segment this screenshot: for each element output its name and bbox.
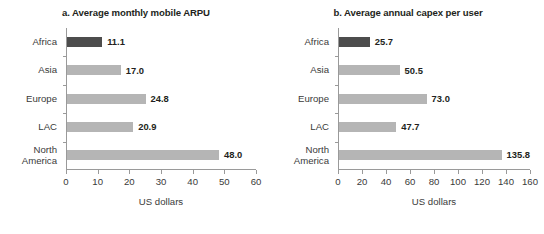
bar-row: 48.0 bbox=[67, 141, 256, 169]
x-axis-tick bbox=[256, 170, 257, 174]
bar bbox=[67, 37, 102, 47]
y-axis-label: North America bbox=[272, 142, 334, 170]
y-axis-tick bbox=[335, 85, 339, 86]
x-axis-tick-label: 120 bbox=[474, 176, 490, 187]
x-axis-tick bbox=[386, 170, 387, 174]
x-axis-tick-label: 30 bbox=[156, 176, 167, 187]
x-axis-tick bbox=[530, 170, 531, 174]
bar-value-label: 24.8 bbox=[151, 94, 169, 103]
x-axis-tick-label: 80 bbox=[429, 176, 440, 187]
bar-value-label: 48.0 bbox=[224, 150, 242, 159]
x-axis-tick-label: 140 bbox=[498, 176, 514, 187]
bar-row: 24.8 bbox=[67, 84, 256, 112]
bar-row: 11.1 bbox=[67, 28, 256, 56]
x-axis-tick bbox=[506, 170, 507, 174]
x-axis-tick bbox=[362, 170, 363, 174]
bar bbox=[339, 94, 427, 104]
bar bbox=[67, 94, 146, 104]
y-axis-tick bbox=[335, 113, 339, 114]
x-axis-tick-label: 20 bbox=[357, 176, 368, 187]
y-axis-label: Asia bbox=[0, 56, 62, 84]
x-axis-tick bbox=[66, 170, 67, 174]
x-axis-tick bbox=[224, 170, 225, 174]
y-axis-tick bbox=[63, 85, 67, 86]
y-axis-label: Asia bbox=[272, 56, 334, 84]
x-axis-tick-label: 100 bbox=[450, 176, 466, 187]
y-axis-labels-a: AfricaAsiaEuropeLACNorth America bbox=[0, 28, 62, 170]
x-axis-tick-label: 10 bbox=[92, 176, 103, 187]
x-axis-tick bbox=[458, 170, 459, 174]
bars-container-b: 25.750.573.047.7135.8 bbox=[339, 28, 530, 169]
x-axis-tick-label: 20 bbox=[124, 176, 135, 187]
x-axis-tick bbox=[98, 170, 99, 174]
bar-row: 135.8 bbox=[339, 141, 530, 169]
bar-row: 47.7 bbox=[339, 113, 530, 141]
x-axis-tick-labels-a: 0102030405060 bbox=[0, 176, 272, 190]
bar-value-label: 47.7 bbox=[401, 122, 419, 131]
y-axis-tick bbox=[335, 142, 339, 143]
bar-row: 25.7 bbox=[339, 28, 530, 56]
x-axis-tick-label: 0 bbox=[335, 176, 340, 187]
x-axis-tick-label: 40 bbox=[381, 176, 392, 187]
y-axis-tick bbox=[63, 142, 67, 143]
figure-container: a. Average monthly mobile ARPU AfricaAsi… bbox=[0, 0, 544, 234]
y-axis-label: Europe bbox=[0, 85, 62, 113]
x-axis-title-a: US dollars bbox=[139, 196, 183, 207]
bar bbox=[67, 122, 133, 132]
y-axis-tick bbox=[63, 56, 67, 57]
x-axis-title-b: US dollars bbox=[412, 196, 456, 207]
x-axis-tick bbox=[482, 170, 483, 174]
x-axis-ticks-b bbox=[338, 170, 530, 174]
chart-title-b: b. Average annual capex per user bbox=[272, 7, 544, 18]
bar-row: 20.9 bbox=[67, 113, 256, 141]
y-axis-label: LAC bbox=[0, 113, 62, 141]
chart-panel-a: a. Average monthly mobile ARPU AfricaAsi… bbox=[0, 0, 272, 234]
bar-value-label: 25.7 bbox=[375, 37, 393, 46]
y-axis-tick bbox=[63, 113, 67, 114]
x-axis-tick-label: 50 bbox=[219, 176, 230, 187]
bar-value-label: 20.9 bbox=[138, 122, 156, 131]
x-axis-tick-label: 60 bbox=[405, 176, 416, 187]
x-axis-tick bbox=[193, 170, 194, 174]
bar bbox=[339, 150, 502, 160]
bar bbox=[67, 150, 219, 160]
y-axis-label: North America bbox=[0, 142, 62, 170]
bar bbox=[67, 65, 121, 75]
x-axis-tick bbox=[129, 170, 130, 174]
x-axis-tick-labels-b: 020406080100120140160 bbox=[272, 176, 544, 190]
y-axis-label: Africa bbox=[272, 28, 334, 56]
bar-value-label: 11.1 bbox=[107, 37, 125, 46]
y-axis-label: LAC bbox=[272, 113, 334, 141]
x-axis-tick bbox=[410, 170, 411, 174]
bar bbox=[339, 37, 370, 47]
y-axis-label: Europe bbox=[272, 85, 334, 113]
bar-value-label: 17.0 bbox=[126, 66, 144, 75]
x-axis-tick bbox=[161, 170, 162, 174]
chart-title-a: a. Average monthly mobile ARPU bbox=[0, 7, 272, 18]
x-axis-tick bbox=[434, 170, 435, 174]
plot-area-b: 25.750.573.047.7135.8 bbox=[338, 28, 530, 170]
bar bbox=[339, 122, 396, 132]
y-axis-label: Africa bbox=[0, 28, 62, 56]
y-axis-labels-b: AfricaAsiaEuropeLACNorth America bbox=[272, 28, 334, 170]
x-axis-ticks-a bbox=[66, 170, 256, 174]
y-axis-tick bbox=[335, 56, 339, 57]
bar-row: 17.0 bbox=[67, 56, 256, 84]
bar-row: 50.5 bbox=[339, 56, 530, 84]
x-axis-tick-label: 160 bbox=[522, 176, 538, 187]
bar-row: 73.0 bbox=[339, 84, 530, 112]
x-axis-tick-label: 60 bbox=[251, 176, 262, 187]
bar bbox=[339, 65, 400, 75]
bar-value-label: 50.5 bbox=[405, 66, 423, 75]
bars-container-a: 11.117.024.820.948.0 bbox=[67, 28, 256, 169]
bar-value-label: 135.8 bbox=[507, 150, 530, 159]
x-axis-tick bbox=[338, 170, 339, 174]
x-axis-tick-label: 0 bbox=[63, 176, 68, 187]
plot-area-a: 11.117.024.820.948.0 bbox=[66, 28, 256, 170]
x-axis-tick-label: 40 bbox=[187, 176, 198, 187]
bar-value-label: 73.0 bbox=[432, 94, 450, 103]
chart-panel-b: b. Average annual capex per user AfricaA… bbox=[272, 0, 544, 234]
